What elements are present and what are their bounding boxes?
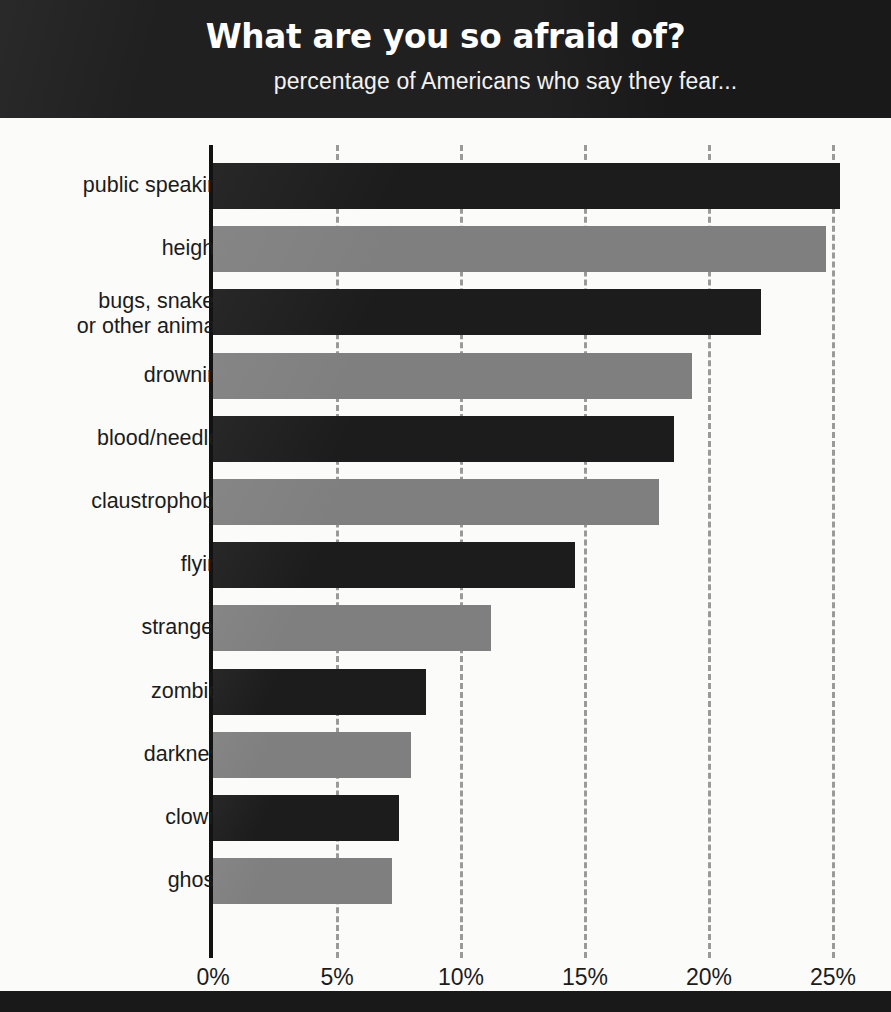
bar[interactable] [213,542,575,588]
bar[interactable] [213,416,674,462]
bar-category-label: darkness [21,742,231,767]
bar[interactable] [213,605,491,651]
bar[interactable] [213,163,840,209]
bar-row[interactable]: heights [0,226,891,272]
x-axis-tick-label: 10% [416,964,506,991]
bar[interactable] [213,858,392,904]
bar-row[interactable]: drowning [0,353,891,399]
bar-row[interactable]: ghosts [0,858,891,904]
page-title: What are you so afraid of? [18,16,873,56]
bar-category-label: strangers [21,615,231,640]
bar-category-label: drowning [21,363,231,388]
bar[interactable] [213,226,826,272]
bar-row[interactable]: clowns [0,795,891,841]
bar[interactable] [213,669,426,715]
x-axis-tick-label: 0% [168,964,258,991]
bar-category-label: ghosts [21,868,231,893]
page-subtitle: percentage of Americans who say they fea… [0,68,891,95]
chart-plot-area: public speakingheightsbugs, snakes,or ot… [0,118,891,991]
bar-category-label: flying [21,552,231,577]
header-band: What are you so afraid of? percentage of… [0,0,891,118]
bar-row[interactable]: claustrophobia [0,479,891,525]
bar[interactable] [213,289,761,335]
bar-category-label: clowns [21,805,231,830]
x-axis-tick-label: 25% [788,964,878,991]
bar-row[interactable]: bugs, snakes,or other animals [0,289,891,335]
x-axis-tick-label: 5% [292,964,382,991]
bar-category-label: heights [21,236,231,261]
x-axis-tick-label: 15% [540,964,630,991]
bar-category-label: bugs, snakes,or other animals [21,289,231,339]
bar-row[interactable]: flying [0,542,891,588]
bar[interactable] [213,479,659,525]
bar-category-label: public speaking [21,173,231,198]
bar[interactable] [213,795,399,841]
bar-category-label: blood/needles [21,426,231,451]
bar-category-label: claustrophobia [21,489,231,514]
bar-row[interactable]: strangers [0,605,891,651]
bar-row[interactable]: public speaking [0,163,891,209]
bar-row[interactable]: blood/needles [0,416,891,462]
bar-row[interactable]: zombies [0,669,891,715]
bar-row[interactable]: darkness [0,732,891,778]
bar-category-label: zombies [21,679,231,704]
footer-band [0,991,891,1012]
infographic-poster: What are you so afraid of? percentage of… [0,0,891,1012]
bar[interactable] [213,732,411,778]
x-axis-tick-label: 20% [664,964,754,991]
bar[interactable] [213,353,692,399]
